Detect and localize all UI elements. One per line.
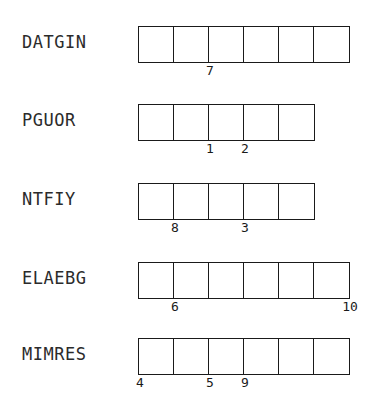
grid-cell[interactable] bbox=[244, 339, 279, 374]
grid-cell[interactable] bbox=[209, 27, 244, 62]
grid-cell[interactable] bbox=[209, 105, 244, 140]
grid-cell[interactable] bbox=[279, 27, 314, 62]
cell-grid bbox=[138, 262, 350, 299]
boundary-marks: 7 bbox=[138, 63, 378, 85]
grid-cell[interactable] bbox=[174, 263, 209, 298]
grid-cell[interactable] bbox=[209, 339, 244, 374]
boundary-mark-label: 7 bbox=[206, 63, 214, 79]
grid-cell[interactable] bbox=[174, 339, 209, 374]
boundary-mark-label: 9 bbox=[241, 375, 249, 391]
grid-cell[interactable] bbox=[279, 263, 314, 298]
grid-cell[interactable] bbox=[139, 339, 174, 374]
cell-strip bbox=[138, 262, 350, 299]
cell-strip bbox=[138, 26, 350, 63]
cell-grid bbox=[138, 26, 350, 63]
boundary-marks: 610 bbox=[138, 299, 378, 321]
strip-row-label: ELAEBG bbox=[22, 268, 86, 288]
boundary-mark-label: 2 bbox=[241, 141, 249, 157]
grid-cell[interactable] bbox=[139, 105, 174, 140]
grid-cell[interactable] bbox=[244, 105, 279, 140]
boundary-mark-label: 8 bbox=[171, 220, 179, 236]
grid-cell[interactable] bbox=[244, 263, 279, 298]
boundary-mark-label: 3 bbox=[241, 220, 249, 236]
strip-row: PGUOR12 bbox=[0, 96, 378, 176]
boundary-mark-label: 1 bbox=[206, 141, 214, 157]
cell-strip bbox=[138, 183, 315, 220]
strip-row: ELAEBG610 bbox=[0, 254, 378, 334]
boundary-marks: 12 bbox=[138, 141, 378, 163]
grid-cell[interactable] bbox=[174, 105, 209, 140]
cell-grid bbox=[138, 338, 350, 375]
grid-cell[interactable] bbox=[209, 263, 244, 298]
strip-row: NTFIY83 bbox=[0, 175, 378, 255]
boundary-marks: 83 bbox=[138, 220, 378, 242]
cell-strip bbox=[138, 338, 350, 375]
grid-cell[interactable] bbox=[279, 184, 314, 219]
grid-cell[interactable] bbox=[139, 263, 174, 298]
grid-cell[interactable] bbox=[209, 184, 244, 219]
grid-cell[interactable] bbox=[174, 184, 209, 219]
strip-row-label: PGUOR bbox=[22, 110, 76, 130]
boundary-mark-label: 4 bbox=[136, 375, 144, 391]
boundary-mark-label: 10 bbox=[342, 299, 358, 315]
grid-cell[interactable] bbox=[139, 184, 174, 219]
strip-row: MIMRES459 bbox=[0, 330, 378, 401]
grid-cell[interactable] bbox=[174, 27, 209, 62]
cell-strip bbox=[138, 104, 315, 141]
cell-grid bbox=[138, 104, 315, 141]
grid-cell[interactable] bbox=[139, 27, 174, 62]
strip-row-label: DATGIN bbox=[22, 32, 86, 52]
worksheet-page: DATGIN7PGUOR12NTFIY83ELAEBG610MIMRES459 bbox=[0, 0, 378, 401]
grid-cell[interactable] bbox=[244, 27, 279, 62]
strip-row: DATGIN7 bbox=[0, 18, 378, 98]
grid-cell[interactable] bbox=[244, 184, 279, 219]
strip-row-label: MIMRES bbox=[22, 344, 86, 364]
boundary-mark-label: 5 bbox=[206, 375, 214, 391]
cell-grid bbox=[138, 183, 315, 220]
boundary-mark-label: 6 bbox=[171, 299, 179, 315]
grid-cell[interactable] bbox=[314, 263, 349, 298]
grid-cell[interactable] bbox=[314, 339, 349, 374]
grid-cell[interactable] bbox=[314, 27, 349, 62]
boundary-marks: 459 bbox=[138, 375, 378, 397]
grid-cell[interactable] bbox=[279, 105, 314, 140]
grid-cell[interactable] bbox=[279, 339, 314, 374]
strip-row-label: NTFIY bbox=[22, 189, 76, 209]
